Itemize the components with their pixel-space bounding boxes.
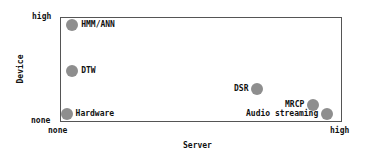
data-point-marker xyxy=(321,108,333,120)
data-point-marker xyxy=(61,108,73,120)
data-point-label: DTW xyxy=(81,66,95,76)
x-axis-label: Server xyxy=(183,141,212,151)
data-point-label: DSR xyxy=(234,84,248,94)
data-point-marker xyxy=(251,83,263,95)
y-tick-high: high xyxy=(32,12,51,22)
data-point-marker xyxy=(66,65,78,77)
data-point-label: HMM/ANN xyxy=(81,20,115,30)
x-tick-high: high xyxy=(330,126,349,136)
y-axis-label: Device xyxy=(16,55,26,84)
x-tick-none: none xyxy=(48,126,67,136)
data-point-label: Audio streaming xyxy=(246,109,318,119)
y-tick-none: none xyxy=(31,116,50,126)
data-point-label: Hardware xyxy=(76,109,115,119)
data-point-marker xyxy=(66,19,78,31)
